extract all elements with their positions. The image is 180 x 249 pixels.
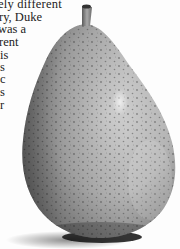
book-page: ely different ry, Duke was a rent is s c… xyxy=(0,0,180,249)
pear-body xyxy=(0,0,180,249)
pear-photo xyxy=(0,0,180,249)
pear-stem xyxy=(82,6,92,26)
